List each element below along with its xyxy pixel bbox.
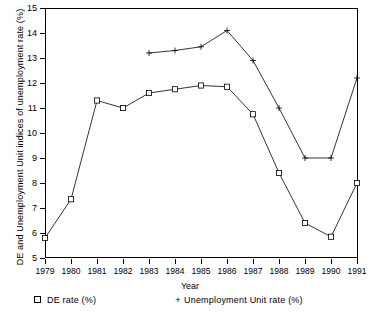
x-tick xyxy=(331,259,332,264)
y-tick xyxy=(40,108,45,109)
x-tick xyxy=(71,259,72,264)
plus-marker-icon: + xyxy=(172,293,184,307)
legend-item-uu-rate: +Unemployment Unit rate (%) xyxy=(172,292,303,306)
y-tick xyxy=(40,208,45,209)
y-tick-label: 13 xyxy=(13,54,37,63)
x-tick xyxy=(305,259,306,264)
y-tick-label: 14 xyxy=(13,29,37,38)
y-tick xyxy=(40,183,45,184)
y-tick-label: 11 xyxy=(13,104,37,113)
y-tick xyxy=(40,33,45,34)
x-tick xyxy=(201,259,202,264)
legend-label-de-rate: DE rate (%) xyxy=(47,295,96,305)
chart-legend: DE rate (%) +Unemployment Unit rate (%) xyxy=(0,292,380,308)
x-tick xyxy=(357,259,358,264)
x-tick xyxy=(253,259,254,264)
x-tick xyxy=(45,259,46,264)
x-tick xyxy=(123,259,124,264)
square-marker-icon xyxy=(34,296,41,303)
x-tick xyxy=(175,259,176,264)
y-tick xyxy=(40,8,45,9)
y-tick xyxy=(40,58,45,59)
plot-frame-right xyxy=(357,8,358,259)
x-tick xyxy=(227,259,228,264)
x-tick-label: 1991 xyxy=(340,266,374,276)
y-tick xyxy=(40,133,45,134)
y-tick-label: 5 xyxy=(13,254,37,263)
y-tick-label: 10 xyxy=(13,129,37,138)
y-tick-label: 15 xyxy=(13,4,37,13)
x-axis-title: Year xyxy=(0,281,380,291)
y-tick-label: 12 xyxy=(13,79,37,88)
legend-item-de-rate: DE rate (%) xyxy=(34,292,96,306)
x-tick xyxy=(279,259,280,264)
y-tick-label: 6 xyxy=(13,229,37,238)
chart-container: DE and Unemployment Unit indices of unem… xyxy=(0,0,380,316)
y-tick xyxy=(40,158,45,159)
y-tick-label: 9 xyxy=(13,154,37,163)
legend-label-uu-rate: Unemployment Unit rate (%) xyxy=(184,295,303,305)
x-tick xyxy=(149,259,150,264)
y-tick xyxy=(40,233,45,234)
x-tick xyxy=(97,259,98,264)
plot-frame-top xyxy=(45,8,358,9)
y-tick-label: 8 xyxy=(13,179,37,188)
y-tick xyxy=(40,83,45,84)
plot-area xyxy=(45,8,357,258)
y-tick-label: 7 xyxy=(13,204,37,213)
